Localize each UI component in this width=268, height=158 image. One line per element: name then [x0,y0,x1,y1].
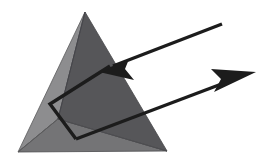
prism-refraction-figure [0,0,268,158]
figure-canvas [0,0,268,158]
incident-ray-line [113,24,222,66]
incident-ray-group [99,24,222,80]
emergent-ray-arrow-head [211,69,256,92]
